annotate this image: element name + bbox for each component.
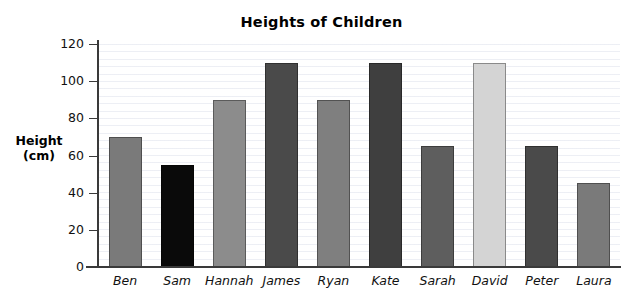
bar-sarah[interactable]	[421, 146, 454, 267]
x-axis-label-kate: Kate	[360, 273, 412, 288]
y-axis-line	[97, 40, 99, 268]
y-axis-tick	[89, 156, 98, 157]
y-axis-tick	[89, 230, 98, 231]
bar-sam[interactable]	[161, 165, 194, 267]
y-axis-tick	[89, 193, 98, 194]
bar-james[interactable]	[265, 63, 298, 267]
x-axis-label-james: James	[255, 273, 307, 288]
y-axis-tick	[89, 118, 98, 119]
x-axis-label-peter: Peter	[516, 273, 568, 288]
y-axis-tick-label: 120	[48, 36, 84, 51]
y-axis-tick	[89, 44, 98, 45]
y-axis-tick	[89, 267, 98, 268]
x-axis-label-laura: Laura	[568, 273, 620, 288]
y-axis-tick-label: 0	[48, 259, 84, 274]
y-axis-tick-label: 40	[48, 185, 84, 200]
x-axis-label-ben: Ben	[99, 273, 151, 288]
x-axis-label-david: David	[464, 273, 516, 288]
chart-title: Heights of Children	[0, 14, 643, 30]
y-axis-label-line-1: Height	[6, 133, 72, 148]
y-axis-tick-label: 80	[48, 110, 84, 125]
bar-peter[interactable]	[525, 146, 558, 267]
bar-david[interactable]	[473, 63, 506, 267]
bar-kate[interactable]	[369, 63, 402, 267]
x-axis-line	[86, 266, 621, 268]
x-axis-label-hannah: Hannah	[203, 273, 255, 288]
y-axis-tick-label: 20	[48, 222, 84, 237]
plot-area	[99, 44, 620, 267]
bar-laura[interactable]	[577, 183, 610, 267]
bar-ryan[interactable]	[317, 100, 350, 267]
x-axis-label-sam: Sam	[151, 273, 203, 288]
bar-chart: Heights of Children Height (cm) 02040608…	[0, 0, 643, 301]
y-axis-tick-label: 100	[48, 73, 84, 88]
x-axis-label-ryan: Ryan	[307, 273, 359, 288]
x-axis-label-sarah: Sarah	[412, 273, 464, 288]
y-axis-tick-label: 60	[48, 148, 84, 163]
bar-ben[interactable]	[109, 137, 142, 267]
bar-hannah[interactable]	[213, 100, 246, 267]
y-axis-tick	[89, 81, 98, 82]
